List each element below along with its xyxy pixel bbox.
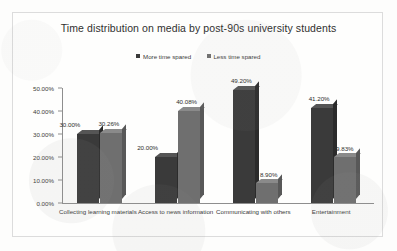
bar-side-face: [122, 125, 126, 199]
bar: [77, 134, 99, 203]
bar: [233, 90, 255, 203]
bars-area: 30.00%30.26%20.00%40.08%49.20%8.90%41.20…: [63, 88, 374, 203]
bar: [155, 157, 177, 203]
bar-side-face: [356, 149, 360, 199]
bar-face: [233, 90, 255, 203]
bar-group: 20.00%40.08%: [155, 88, 200, 203]
legend-label-more-time-spared: More time spared: [143, 53, 191, 60]
bar-value-label: 40.08%: [176, 98, 197, 105]
x-axis-category-label: Entertainment: [292, 208, 370, 217]
y-tick-label: 20.00%: [33, 154, 54, 161]
y-axis-tick: [58, 157, 62, 158]
bar: [100, 133, 122, 203]
y-tick-label: 0.00%: [36, 200, 54, 207]
plot-area: 0.00%10.00%20.00%30.00%40.00%50.00% 30.0…: [22, 88, 374, 203]
bar-value-label: 20.00%: [137, 144, 158, 151]
bar-group: 49.20%8.90%: [233, 88, 278, 203]
bar-face: [155, 157, 177, 203]
bar-value-label: 19.83%: [333, 145, 354, 152]
bar: [311, 108, 333, 203]
bar-face: [311, 108, 333, 203]
x-axis-line: [62, 203, 374, 204]
bar: [178, 111, 200, 203]
chart-legend: More time spared Less time spared: [0, 52, 397, 60]
bar-group: 30.00%30.26%: [77, 88, 122, 203]
y-axis-tick: [58, 134, 62, 135]
legend-swatch-less-time-spared: [207, 54, 211, 58]
bar-value-label: 8.90%: [260, 171, 278, 178]
y-axis: 0.00%10.00%20.00%30.00%40.00%50.00%: [22, 88, 58, 203]
legend-item-more-time-spared: More time spared: [136, 52, 191, 60]
bar-face: [100, 133, 122, 203]
bar: [256, 183, 278, 203]
y-tick-label: 50.00%: [33, 85, 54, 92]
bar-face: [77, 134, 99, 203]
legend-swatch-more-time-spared: [136, 54, 140, 58]
y-axis-tick: [58, 88, 62, 89]
legend-item-less-time-spared: Less time spared: [207, 52, 261, 60]
bar: [334, 157, 356, 203]
bar-value-label: 30.00%: [59, 121, 80, 128]
bar-value-label: 30.26%: [98, 120, 119, 127]
y-axis-tick: [58, 203, 62, 204]
y-tick-label: 10.00%: [33, 177, 54, 184]
y-tick-label: 40.00%: [33, 108, 54, 115]
chart-title: Time distribution on media by post-90s u…: [0, 22, 397, 34]
y-axis-tick: [58, 111, 62, 112]
bar-side-face: [278, 174, 282, 199]
x-axis-category-label: Collecting learning materials: [59, 208, 137, 217]
y-tick-label: 30.00%: [33, 131, 54, 138]
bar-face: [178, 111, 200, 203]
x-axis-category-label: Access to news information: [137, 208, 215, 217]
x-axis-category-label: Communicating with others: [215, 208, 293, 217]
bar-value-label: 41.20%: [309, 95, 330, 102]
bar-value-label: 49.20%: [231, 77, 252, 84]
bar-group: 41.20%19.83%: [311, 88, 356, 203]
bar-face: [256, 183, 278, 203]
legend-label-less-time-spared: Less time spared: [213, 53, 260, 60]
bar-face: [334, 157, 356, 203]
bar-side-face: [200, 102, 204, 199]
y-axis-tick: [58, 180, 62, 181]
